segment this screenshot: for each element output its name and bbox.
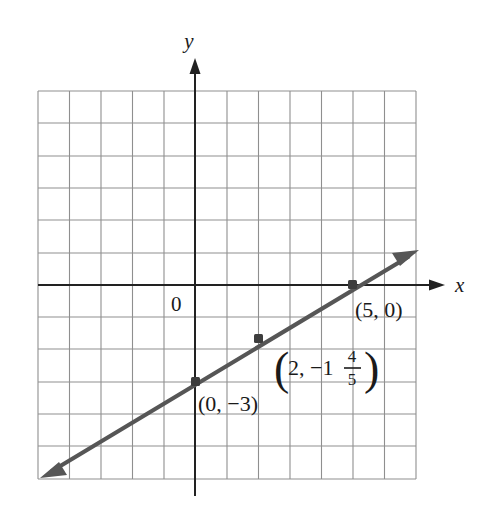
fraction-numerator: 4 [348, 347, 357, 366]
fraction-denominator: 5 [348, 370, 357, 389]
y-axis [190, 58, 201, 496]
graph-figure: y x 0 (0, −3) (5, 0) ( 2, −1 4 5 ) [0, 0, 485, 513]
point-marker-mid [254, 334, 263, 343]
y-axis-label: y [182, 29, 194, 53]
x-axis-label: x [454, 273, 465, 297]
point-marker-y-intercept [191, 377, 200, 386]
mid-point-text: 2, −1 [288, 355, 333, 380]
right-paren: ) [364, 343, 379, 394]
origin-label: 0 [171, 292, 182, 316]
label-y-intercept: (0, −3) [198, 391, 258, 416]
coordinate-plane-svg: y x 0 (0, −3) (5, 0) ( 2, −1 4 5 ) [0, 0, 485, 513]
point-marker-x-intercept [348, 280, 357, 289]
mixed-fraction: 4 5 [344, 347, 361, 389]
label-x-intercept: (5, 0) [355, 297, 403, 322]
